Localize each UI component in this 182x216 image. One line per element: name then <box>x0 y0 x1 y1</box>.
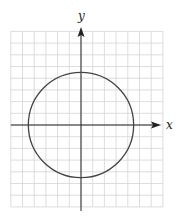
coordinate-plot: x y <box>0 0 182 216</box>
x-axis-label: x <box>166 118 173 132</box>
grid-lines <box>11 31 163 207</box>
y-axis-label: y <box>77 9 85 23</box>
